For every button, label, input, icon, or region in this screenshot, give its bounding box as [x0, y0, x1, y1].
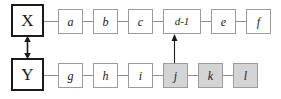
connector-e-f: [236, 21, 246, 22]
double-arrow-x-y-icon: [21, 36, 34, 59]
connector-y-g: [44, 75, 58, 76]
node-j-label: j: [174, 70, 177, 82]
connector-d1-e: [201, 21, 211, 22]
node-f[interactable]: f: [246, 9, 271, 34]
node-y[interactable]: Y: [11, 58, 44, 91]
connector-a-b: [83, 21, 93, 22]
node-i[interactable]: i: [128, 63, 153, 88]
node-j[interactable]: j: [163, 63, 188, 88]
connector-b-c: [118, 21, 128, 22]
sequence-diagram: X a b c d-1 e f Y g h i j k l: [0, 0, 281, 99]
node-b[interactable]: b: [93, 9, 118, 34]
node-e-label: e: [221, 16, 226, 28]
node-k-label: k: [208, 70, 213, 82]
node-a[interactable]: a: [58, 9, 83, 34]
node-k[interactable]: k: [198, 63, 223, 88]
node-l[interactable]: l: [233, 63, 258, 88]
connector-x-a: [44, 21, 58, 22]
node-f-label: f: [257, 16, 260, 28]
node-g[interactable]: g: [58, 63, 83, 88]
connector-g-h: [83, 75, 93, 76]
connector-c-d1: [153, 21, 163, 22]
connector-k-l: [223, 75, 233, 76]
node-i-label: i: [139, 70, 142, 82]
node-h[interactable]: h: [93, 63, 118, 88]
node-c[interactable]: c: [128, 9, 153, 34]
connector-j-k: [188, 75, 198, 76]
connector-i-j: [153, 75, 163, 76]
node-x[interactable]: X: [11, 4, 44, 37]
node-d-minus-1-label: d-1: [175, 16, 190, 27]
connector-h-i: [118, 75, 128, 76]
node-e[interactable]: e: [211, 9, 236, 34]
node-l-label: l: [244, 70, 247, 82]
up-arrow-j-to-d-minus-1-icon: [169, 34, 180, 63]
node-b-label: b: [103, 16, 109, 28]
node-x-label: X: [21, 12, 33, 29]
node-y-label: Y: [21, 66, 33, 83]
node-c-label: c: [138, 16, 143, 28]
node-h-label: h: [103, 70, 109, 82]
node-a-label: a: [68, 16, 74, 28]
node-d-minus-1[interactable]: d-1: [163, 9, 201, 34]
node-g-label: g: [68, 70, 74, 82]
